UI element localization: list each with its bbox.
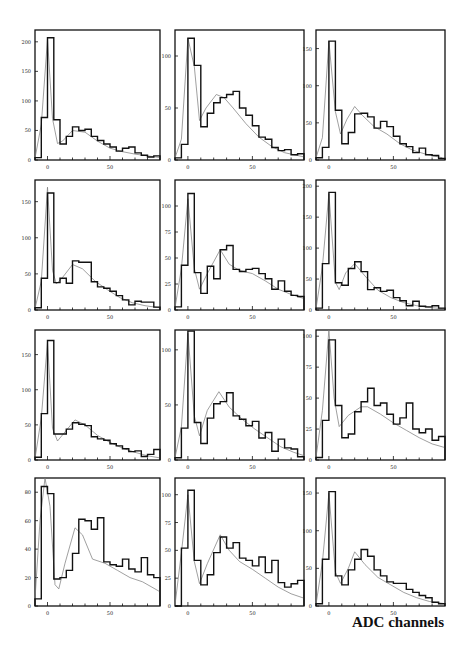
histogram-steps [35, 193, 160, 310]
histogram-panel-8: 050100050 [161, 330, 304, 470]
y-tick-label: 25 [165, 281, 171, 287]
y-tick-label: 0 [309, 603, 312, 609]
y-tick-label: 0 [28, 157, 31, 163]
y-tick-label: 60 [25, 518, 31, 524]
histogram-steps [316, 41, 445, 160]
histogram-panel-9: 0255075100050 [302, 330, 445, 470]
y-tick-label: 0 [28, 307, 31, 313]
y-tick-label: 20 [25, 575, 31, 581]
y-tick-label: 150 [21, 352, 31, 358]
y-tick-label: 75 [165, 520, 171, 526]
y-tick-label: 100 [161, 203, 171, 209]
x-tick-label: 50 [249, 314, 255, 320]
x-tick-label: 50 [249, 464, 255, 470]
y-tick-label: 150 [21, 199, 31, 205]
y-tick-label: 50 [306, 395, 312, 401]
x-tick-label: 50 [249, 164, 255, 170]
y-tick-label: 50 [165, 255, 171, 261]
y-tick-label: 100 [21, 387, 31, 393]
x-axis-label: ADC channels [352, 614, 444, 631]
y-tick-label: 80 [25, 489, 31, 495]
x-tick-label: 50 [107, 464, 113, 470]
y-tick-label: 50 [165, 402, 171, 408]
y-tick-label: 50 [306, 120, 312, 126]
y-tick-label: 100 [161, 492, 171, 498]
y-tick-label: 0 [309, 307, 312, 313]
y-tick-label: 100 [161, 53, 171, 59]
y-tick-label: 0 [168, 307, 171, 313]
histogram-panel-12: 050100150050 [302, 478, 445, 616]
histogram-steps [175, 194, 304, 311]
y-tick-label: 100 [21, 235, 31, 241]
y-tick-label: 100 [21, 98, 31, 104]
histogram-panel-11: 0255075100050 [161, 478, 304, 616]
histogram-steps [175, 38, 304, 160]
histogram-steps [35, 38, 160, 160]
y-tick-label: 0 [168, 457, 171, 463]
histogram-panel-6: 050100150200050 [302, 180, 445, 320]
x-tick-label: 0 [46, 610, 49, 616]
y-tick-label: 100 [161, 347, 171, 353]
histogram-steps [175, 331, 304, 460]
histogram-panel-2: 050100050 [161, 30, 304, 170]
x-tick-label: 50 [390, 314, 396, 320]
y-tick-label: 150 [302, 214, 312, 220]
histogram-grid: 0501001502000500501000500501001500500501… [0, 0, 466, 653]
x-tick-label: 50 [107, 164, 113, 170]
x-tick-label: 0 [46, 164, 49, 170]
histogram-panel-7: 050100150050 [21, 330, 160, 470]
y-tick-label: 50 [165, 547, 171, 553]
x-tick-label: 0 [46, 464, 49, 470]
y-tick-label: 75 [165, 229, 171, 235]
y-tick-label: 25 [165, 575, 171, 581]
y-tick-label: 150 [302, 46, 312, 52]
y-tick-label: 0 [309, 157, 312, 163]
x-tick-label: 0 [327, 164, 330, 170]
y-tick-label: 50 [25, 271, 31, 277]
y-tick-label: 0 [28, 457, 31, 463]
x-tick-label: 0 [186, 610, 189, 616]
histogram-figure: 0501001502000500501000500501001500500501… [0, 0, 466, 653]
y-tick-label: 50 [25, 127, 31, 133]
histogram-panel-1: 050100150200050 [21, 30, 160, 170]
histogram-steps [316, 340, 445, 460]
y-tick-label: 50 [25, 422, 31, 428]
y-tick-label: 100 [302, 245, 312, 251]
y-tick-label: 200 [302, 183, 312, 189]
y-tick-label: 75 [306, 364, 312, 370]
y-tick-label: 0 [168, 603, 171, 609]
x-tick-label: 0 [327, 314, 330, 320]
histogram-steps [316, 492, 445, 606]
y-tick-label: 40 [25, 546, 31, 552]
histogram-steps [35, 341, 160, 461]
y-tick-label: 150 [302, 490, 312, 496]
y-tick-label: 100 [302, 333, 312, 339]
y-tick-label: 100 [302, 83, 312, 89]
histogram-panel-4: 050100150050 [21, 180, 160, 320]
x-tick-label: 50 [249, 610, 255, 616]
y-tick-label: 50 [306, 565, 312, 571]
x-tick-label: 50 [107, 610, 113, 616]
x-tick-label: 0 [46, 314, 49, 320]
x-tick-label: 0 [186, 314, 189, 320]
histogram-steps [175, 490, 304, 606]
y-tick-label: 0 [309, 457, 312, 463]
y-tick-label: 25 [306, 426, 312, 432]
y-tick-label: 0 [168, 157, 171, 163]
y-tick-label: 200 [21, 39, 31, 45]
x-tick-label: 50 [107, 314, 113, 320]
histogram-panel-3: 050100150050 [302, 30, 445, 170]
y-tick-label: 150 [21, 68, 31, 74]
x-tick-label: 0 [327, 464, 330, 470]
y-tick-label: 50 [306, 276, 312, 282]
x-tick-label: 50 [390, 464, 396, 470]
histogram-panel-10: 020406080050 [25, 478, 160, 616]
y-tick-label: 0 [28, 603, 31, 609]
x-tick-label: 0 [186, 464, 189, 470]
y-tick-label: 50 [165, 105, 171, 111]
histogram-steps [316, 192, 445, 310]
histogram-steps [35, 487, 160, 607]
y-tick-label: 100 [302, 528, 312, 534]
x-tick-label: 0 [186, 164, 189, 170]
histogram-panel-5: 0255075100050 [161, 180, 304, 320]
